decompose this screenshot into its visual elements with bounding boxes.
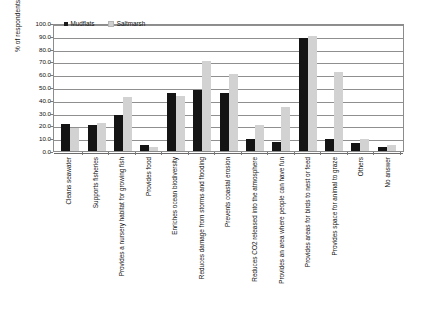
bar-mudflats[interactable] bbox=[140, 145, 149, 151]
bar-group bbox=[374, 25, 400, 151]
bar-saltmarsh[interactable] bbox=[255, 125, 264, 151]
bar-group bbox=[295, 25, 321, 151]
bar-mudflats[interactable] bbox=[61, 124, 70, 151]
x-axis-tick-mark bbox=[83, 152, 110, 156]
y-axis-tick-mark bbox=[50, 88, 53, 89]
x-axis-tick-mark bbox=[189, 152, 216, 156]
bar-mudflats[interactable] bbox=[299, 38, 308, 151]
x-axis-tick-mark bbox=[268, 152, 295, 156]
x-axis-category-label: Others bbox=[358, 157, 364, 176]
bar-saltmarsh[interactable] bbox=[149, 147, 158, 151]
x-axis-category-label: Reduces CO2 released into the atmosphere bbox=[252, 157, 258, 282]
x-label-cell: Provides food bbox=[136, 157, 163, 327]
x-axis-category-label: Provides areas for birds to nest or feed bbox=[305, 157, 311, 267]
bar-mudflats[interactable] bbox=[193, 90, 202, 151]
x-axis-tick-mark bbox=[56, 152, 83, 156]
bar-group bbox=[83, 25, 109, 151]
y-axis-tick-mark bbox=[50, 139, 53, 140]
bar-mudflats[interactable] bbox=[378, 147, 387, 151]
y-axis-tick-mark bbox=[50, 101, 53, 102]
bar-saltmarsh[interactable] bbox=[123, 97, 132, 151]
bar-mudflats[interactable] bbox=[351, 143, 360, 151]
bar-group bbox=[242, 25, 268, 151]
y-axis-tick-mark bbox=[50, 37, 53, 38]
x-label-cell: Others bbox=[348, 157, 375, 327]
bar-mudflats[interactable] bbox=[246, 139, 255, 151]
y-axis-tick-mark bbox=[50, 24, 53, 25]
bar-mudflats[interactable] bbox=[220, 93, 229, 151]
legend-swatch-icon bbox=[108, 21, 114, 27]
bar-group bbox=[268, 25, 294, 151]
bar-saltmarsh[interactable] bbox=[387, 145, 396, 151]
x-axis-tick-mark bbox=[321, 152, 348, 156]
bar-saltmarsh[interactable] bbox=[70, 128, 79, 151]
x-axis-category-label: Supports fisheries bbox=[93, 157, 99, 208]
y-axis-tick-labels: 100.090.080.070.060.050.040.030.020.010.… bbox=[14, 24, 51, 152]
bar-saltmarsh[interactable] bbox=[229, 74, 238, 151]
x-label-cell: Provides a nursery habitat for growing f… bbox=[109, 157, 136, 327]
bar-mudflats[interactable] bbox=[114, 115, 123, 151]
bar-group bbox=[321, 25, 347, 151]
x-axis-category-label: Cleans seawater bbox=[66, 157, 72, 205]
x-label-cell: Reduces CO2 released into the atmosphere bbox=[242, 157, 269, 327]
bar-saltmarsh[interactable] bbox=[97, 123, 106, 151]
bar-mudflats[interactable] bbox=[88, 125, 97, 151]
x-axis-category-label: Enriches ocean biodiversity bbox=[172, 157, 178, 235]
y-axis-tick-mark bbox=[50, 152, 53, 153]
x-axis-category-labels: Cleans seawaterSupports fisheriesProvide… bbox=[53, 157, 404, 327]
x-axis-category-label: Prevents coastal erosion bbox=[225, 157, 231, 227]
x-axis-category-label: Provides an area where people can have f… bbox=[278, 157, 284, 284]
bar-saltmarsh[interactable] bbox=[360, 139, 369, 151]
x-axis-category-label: Provides space for animal to graze bbox=[331, 157, 337, 255]
bar-mudflats[interactable] bbox=[325, 139, 334, 151]
x-axis-tick-mark bbox=[295, 152, 322, 156]
x-label-cell: Prevents coastal erosion bbox=[215, 157, 242, 327]
bar-group bbox=[57, 25, 83, 151]
bar-saltmarsh[interactable] bbox=[202, 61, 211, 151]
bar-saltmarsh[interactable] bbox=[308, 36, 317, 151]
bar-group bbox=[347, 25, 373, 151]
bars-layer bbox=[54, 25, 403, 151]
y-axis-tick-mark bbox=[50, 62, 53, 63]
bar-saltmarsh[interactable] bbox=[334, 72, 343, 151]
x-axis-tick-mark bbox=[348, 152, 375, 156]
bar-mudflats[interactable] bbox=[167, 93, 176, 151]
x-axis-tick-mark bbox=[136, 152, 163, 156]
legend-swatch-icon bbox=[64, 22, 68, 26]
x-axis-category-label: Provides a nursery habitat for growing f… bbox=[119, 157, 125, 276]
x-axis-tick-mark bbox=[162, 152, 189, 156]
bar-group bbox=[136, 25, 162, 151]
bar-chart: % of respondents 100.090.080.070.060.050… bbox=[0, 0, 421, 334]
x-label-cell: Supports fisheries bbox=[83, 157, 110, 327]
x-label-cell: No answer bbox=[374, 157, 401, 327]
y-axis-tick-label: 100.0 bbox=[36, 21, 51, 27]
legend-label: Mudflats bbox=[71, 21, 95, 27]
x-axis-tick-mark bbox=[215, 152, 242, 156]
plot-area bbox=[53, 24, 404, 152]
y-axis-tick-mark bbox=[50, 114, 53, 115]
x-axis-category-label: Reduces damage from storms and flooding bbox=[199, 157, 205, 279]
x-axis-tick-mark bbox=[109, 152, 136, 156]
bar-saltmarsh[interactable] bbox=[176, 96, 185, 151]
legend-item-mudflats[interactable]: Mudflats bbox=[64, 21, 94, 27]
x-axis-category-label: Provides food bbox=[146, 157, 152, 196]
y-axis-tick-mark bbox=[50, 75, 53, 76]
x-label-cell: Reduces damage from storms and flooding bbox=[189, 157, 216, 327]
bar-group bbox=[189, 25, 215, 151]
x-label-cell: Enriches ocean biodiversity bbox=[162, 157, 189, 327]
x-axis-tick-mark bbox=[374, 152, 401, 156]
x-label-cell: Provides space for animal to graze bbox=[321, 157, 348, 327]
bar-group bbox=[163, 25, 189, 151]
x-label-cell: Provides areas for birds to nest or feed bbox=[295, 157, 322, 327]
x-axis-ticks bbox=[53, 152, 404, 156]
chart-legend: MudflatsSaltmarsh bbox=[64, 21, 145, 27]
y-axis-tick-mark bbox=[50, 50, 53, 51]
x-label-cell: Cleans seawater bbox=[56, 157, 83, 327]
x-axis-category-label: No answer bbox=[384, 157, 390, 188]
bar-saltmarsh[interactable] bbox=[281, 107, 290, 151]
x-axis-tick-mark bbox=[242, 152, 269, 156]
bar-mudflats[interactable] bbox=[272, 142, 281, 151]
legend-label: Saltmarsh bbox=[117, 21, 145, 27]
legend-item-saltmarsh[interactable]: Saltmarsh bbox=[108, 21, 145, 27]
bar-group bbox=[215, 25, 241, 151]
